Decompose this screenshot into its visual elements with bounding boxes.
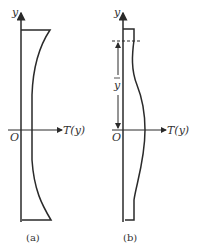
- y-label-b: y: [113, 6, 121, 19]
- origin-label-a: O: [10, 131, 19, 144]
- figure-b: y y O T(y) (b): [112, 6, 189, 243]
- caption-b: (b): [123, 232, 137, 243]
- figure-a: y O T(y) (a): [8, 6, 85, 243]
- t-label-a: T(y): [63, 124, 85, 137]
- distribution-shape-b: [123, 29, 145, 220]
- origin-label-b: O: [112, 131, 121, 144]
- t-label-b: T(y): [167, 124, 189, 137]
- ybar-label: y: [113, 79, 121, 92]
- y-label-a: y: [11, 6, 19, 19]
- caption-a: (a): [26, 232, 40, 243]
- diagram-canvas: y O T(y) (a) y y O T(y) (b): [0, 0, 197, 248]
- distribution-shape-a: [21, 30, 51, 220]
